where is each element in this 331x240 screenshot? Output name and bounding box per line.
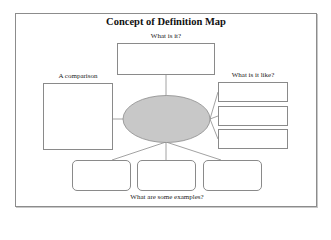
what-is-it-like-box-1[interactable] [218, 82, 288, 102]
connector-bottom-1 [112, 142, 166, 160]
label-comparison: A comparison [43, 72, 113, 80]
connector-right-3 [210, 119, 218, 139]
label-what-is-it-like: What is it like? [218, 71, 288, 79]
connector-bottom-3 [166, 142, 221, 160]
label-what-is-it: What is it? [117, 32, 215, 40]
what-is-it-like-box-2[interactable] [218, 106, 288, 126]
what-is-it-like-box-3[interactable] [218, 129, 288, 149]
what-is-it-box[interactable] [117, 43, 215, 75]
label-examples: What are some examples? [72, 193, 262, 201]
center-concept-ellipse [123, 96, 210, 143]
example-box-2[interactable] [137, 160, 196, 191]
example-box-3[interactable] [203, 160, 262, 191]
comparison-box[interactable] [43, 83, 113, 150]
connector-right-2 [210, 116, 218, 119]
connector-right-1 [210, 92, 218, 119]
example-box-1[interactable] [72, 160, 131, 191]
